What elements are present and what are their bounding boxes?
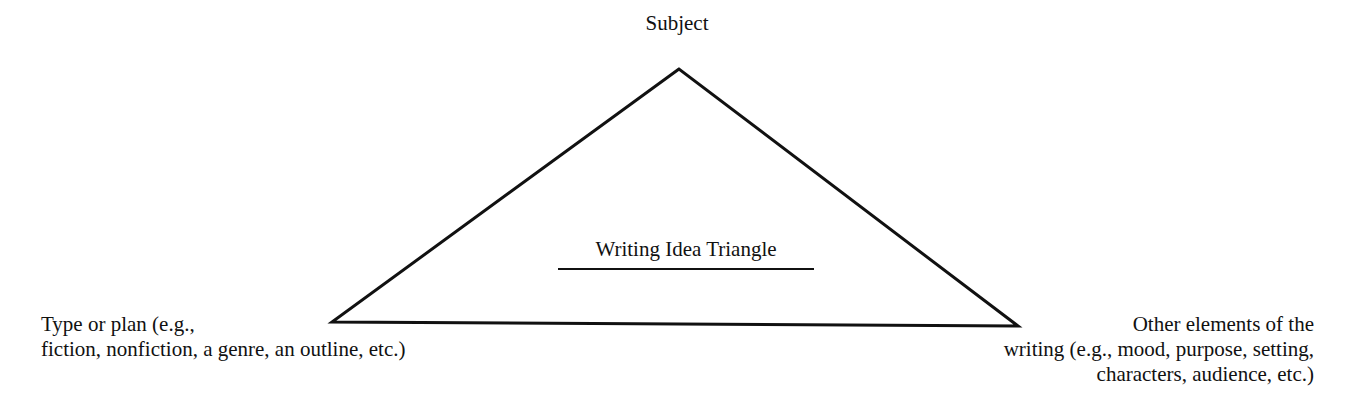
label-line: fiction, nonfiction, a genre, an outline… [41, 337, 405, 362]
label-line: writing (e.g., mood, purpose, setting, [1004, 337, 1314, 362]
label-line: Type or plan (e.g., [41, 312, 405, 337]
label-line: characters, audience, etc.) [1004, 362, 1314, 387]
vertex-label-other-elements: Other elements of the writing (e.g., moo… [1004, 312, 1314, 387]
title-underline [558, 268, 814, 270]
vertex-label-type-or-plan: Type or plan (e.g., fiction, nonfiction,… [41, 312, 405, 362]
diagram-title: Writing Idea Triangle [558, 237, 814, 262]
vertex-label-subject: Subject [0, 11, 1358, 36]
label-line: Other elements of the [1004, 312, 1314, 337]
